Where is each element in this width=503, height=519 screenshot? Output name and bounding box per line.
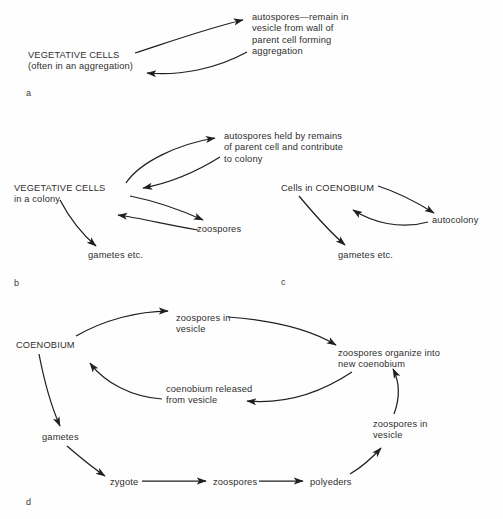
arrow-c-autocolony-to-cells xyxy=(353,210,428,225)
panel-d-node-coenobium: COENOBIUM xyxy=(16,340,75,351)
arrow-c-cells-to-autocolony xyxy=(378,186,434,213)
arrow-d-released-to-coenobium xyxy=(90,363,162,399)
panel-label-d: d xyxy=(26,497,31,507)
arrow-d-coenobium-to-gametes xyxy=(39,354,60,426)
panel-d-node-zoospores-organize: zoospores organize into new coenobium xyxy=(338,348,440,371)
panel-a-node-autospores: autospores—remain in vesicle from wall o… xyxy=(252,12,349,58)
panel-b-node-gametes: gametes etc. xyxy=(88,250,143,261)
arrow-b-autospores-to-veg xyxy=(143,157,220,188)
panel-b-node-vegetative-cells: VEGETATIVE CELLS in a colony xyxy=(14,183,105,206)
panel-a-node-vegetative-cells: VEGETATIVE CELLS (often in an aggregatio… xyxy=(28,50,133,73)
panel-c-node-cells-in-coenobium: Cells in COENOBIUM xyxy=(281,183,374,194)
panel-c-node-autocolony: autocolony xyxy=(432,215,478,226)
panel-d-node-zoospores-in-vesicle-right: zoospores in vesicle xyxy=(373,419,428,442)
arrow-a-autospores-to-veg xyxy=(147,52,247,74)
panel-b-node-zoospores: zoospores xyxy=(197,224,241,235)
arrow-d-coenobium-to-zoovesicle xyxy=(76,311,168,336)
arrow-d-zoovesicle-to-organize-right xyxy=(393,369,398,414)
arrow-d-polyeders-to-zoovesicle xyxy=(350,448,381,474)
panel-d-node-coenobium-released: coenobium released from vesicle xyxy=(166,384,252,407)
arrow-c-cells-to-gametes xyxy=(299,196,345,245)
panel-d-node-zoospores-in-vesicle-top: zoospores in vesicle xyxy=(176,313,231,336)
panel-d-node-zygote: zygote xyxy=(110,477,138,488)
arrow-b-veg-to-gametes xyxy=(60,200,96,246)
figure-canvas: VEGETATIVE CELLS (often in an aggregatio… xyxy=(0,0,503,519)
panel-label-a: a xyxy=(26,88,31,98)
arrow-b-veg-to-zoospores xyxy=(130,196,203,220)
panel-label-b: b xyxy=(14,278,19,288)
panel-d-node-zoospores: zoospores xyxy=(213,477,257,488)
panel-d-node-polyeders: polyeders xyxy=(310,477,352,488)
panel-b-node-autospores: autospores held by remains of parent cel… xyxy=(224,131,343,165)
arrow-d-zoovesicle-to-organize xyxy=(228,317,336,345)
arrow-d-gametes-to-zygote xyxy=(67,446,105,476)
arrow-a-veg-to-autospores xyxy=(135,20,243,53)
panel-label-c: c xyxy=(281,277,286,287)
panel-d-node-gametes: gametes xyxy=(42,432,79,443)
arrow-d-organize-to-released xyxy=(247,372,352,402)
arrow-b-zoospores-to-veg xyxy=(118,215,198,230)
panel-c-node-gametes: gametes etc. xyxy=(338,250,393,261)
arrow-b-veg-to-autospores xyxy=(126,138,215,183)
